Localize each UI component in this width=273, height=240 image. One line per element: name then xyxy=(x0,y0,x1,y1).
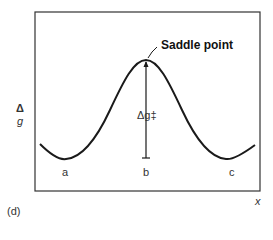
annotation-leader-line xyxy=(148,47,157,58)
position-a: a xyxy=(62,166,68,178)
saddle-point-label: Saddle point xyxy=(161,38,233,52)
y-axis-label-delta: Δ xyxy=(16,102,24,114)
barrier-label: Δg‡ xyxy=(137,109,157,121)
position-b: b xyxy=(143,166,149,178)
panel-label: (d) xyxy=(7,205,20,217)
y-axis-label-g: g xyxy=(17,115,23,127)
position-c: c xyxy=(229,166,235,178)
arrow-head-up-icon xyxy=(144,61,149,67)
x-axis-label: x xyxy=(255,195,261,207)
